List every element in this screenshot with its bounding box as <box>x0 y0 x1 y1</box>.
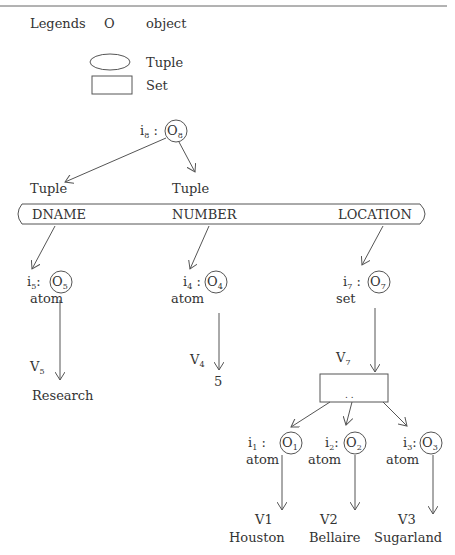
value-label: V4 <box>190 352 204 372</box>
node-type: set <box>336 291 356 306</box>
value: Houston <box>229 530 285 545</box>
value-label: V2 <box>320 512 338 527</box>
value: Bellaire <box>309 530 360 545</box>
root-id: i8 : <box>140 123 158 143</box>
node-type: atom <box>30 291 63 306</box>
legend-ellipse-icon <box>90 54 130 70</box>
set-rectangle <box>320 374 388 402</box>
field-location: LOCATION <box>338 207 412 222</box>
node-type: atom <box>308 452 341 467</box>
node-o3: O3 <box>422 435 438 455</box>
legend-rect-icon <box>92 76 132 94</box>
field-dname: DNAME <box>32 207 86 222</box>
node-o7: O7 <box>370 274 386 294</box>
set-dots: . . <box>345 388 354 403</box>
legend-set-label: Set <box>146 78 168 93</box>
tuple-label-right: Tuple <box>172 181 209 196</box>
node-type: atom <box>246 452 279 467</box>
node-o1: O1 <box>282 435 298 455</box>
field-number: NUMBER <box>172 207 236 222</box>
value-label: V5 <box>30 359 44 379</box>
value: Research <box>32 388 93 403</box>
node-o2: O2 <box>346 435 362 455</box>
value-label: V1 <box>255 512 273 527</box>
node-type: atom <box>386 452 419 467</box>
value-label: V7 <box>336 350 350 370</box>
legend-object-label: object <box>146 16 186 31</box>
diagram-lines <box>0 0 455 555</box>
value: Sugarland <box>374 530 442 545</box>
value: 5 <box>214 374 222 389</box>
legend-title: Legends <box>30 16 86 31</box>
node-o4: O4 <box>207 274 223 294</box>
legend-object-symbol: O <box>104 16 115 31</box>
tuple-label-left: Tuple <box>30 181 67 196</box>
legend-tuple-label: Tuple <box>146 55 183 70</box>
value-label: V3 <box>398 512 416 527</box>
node-type: atom <box>171 291 204 306</box>
root-object: O8 <box>167 123 183 143</box>
